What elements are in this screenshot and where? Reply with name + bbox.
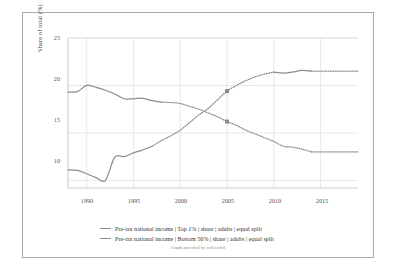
chart-legend: Pre-tax national income | Top 1% | share… [70, 224, 330, 244]
legend-swatch-top1 [100, 228, 111, 229]
legend-swatch-bottom50 [100, 238, 111, 239]
chart-credit: Graph provided by wid.world [0, 245, 396, 250]
legend-label-bottom50: Pre-tax national income | Bottom 50% | s… [115, 236, 274, 242]
legend-item-bottom50[interactable]: Pre-tax national income | Bottom 50% | s… [70, 234, 330, 243]
series-lines [68, 70, 358, 181]
legend-label-top1: Pre-tax national income | Top 1% | share… [115, 226, 262, 232]
legend-item-top1[interactable]: Pre-tax national income | Top 1% | share… [70, 224, 330, 233]
chart-page: Share of total (%) 25 20 15 10 1990 1995… [0, 0, 396, 269]
